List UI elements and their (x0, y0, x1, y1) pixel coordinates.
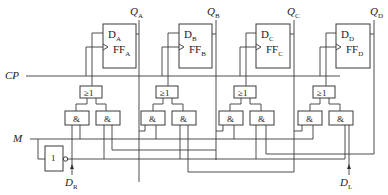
dr-input (70, 125, 74, 175)
svg-text:&: & (104, 114, 111, 124)
and-to-or-wires (76, 98, 340, 111)
feedback-wires (112, 125, 374, 172)
svg-text:≥1: ≥1 (160, 88, 169, 98)
flip-flop-c: DC FFC (256, 24, 290, 68)
svg-text:1: 1 (51, 153, 56, 163)
q-a-label: QA (130, 5, 143, 20)
svg-text:&: & (258, 114, 265, 124)
svg-text:≥1: ≥1 (238, 88, 247, 98)
flip-flop-d: DD FFD (336, 24, 370, 68)
svg-text:≥1: ≥1 (317, 88, 326, 98)
q-c-label: QC (287, 5, 300, 20)
m-label: M (12, 132, 23, 144)
q-d-label: QD (370, 5, 383, 20)
or-gates: ≥1 ≥1 ≥1 ≥1 (80, 86, 335, 98)
inverter: 1 (45, 146, 68, 171)
svg-text:≥1: ≥1 (84, 88, 93, 98)
svg-text:&: & (337, 114, 344, 124)
dr-label: DR (64, 176, 78, 191)
and-gates: & & & & & & & & (65, 111, 353, 125)
svg-text:&: & (73, 114, 80, 124)
flip-flop-a: DA FFA (103, 24, 136, 68)
svg-text:&: & (306, 114, 313, 124)
q-b-label: QB (207, 5, 220, 20)
shift-register-diagram: DA FFA DB FFB DC FFC DD FFD QA QB QC QD … (0, 0, 388, 195)
cp-label: CP (5, 69, 19, 81)
svg-text:&: & (180, 114, 187, 124)
svg-text:&: & (149, 114, 156, 124)
dl-label: DL (339, 176, 352, 191)
dl-input (347, 125, 351, 175)
flip-flop-b: DB FFB (179, 24, 212, 68)
svg-text:&: & (227, 114, 234, 124)
